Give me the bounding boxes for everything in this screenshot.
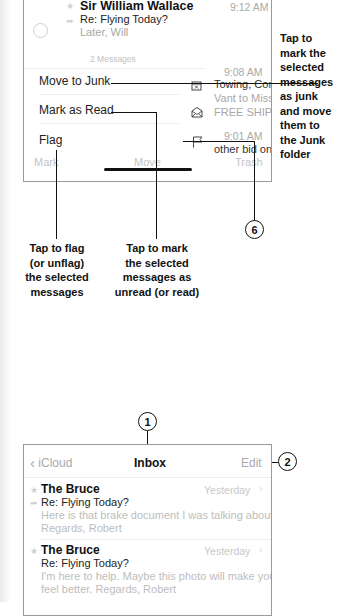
mark-as-read-button[interactable]: Mark as Read (39, 103, 114, 117)
junk-tray-icon[interactable] (191, 77, 202, 95)
callout-line-6 (183, 141, 255, 142)
divider (24, 477, 271, 478)
flag-icon[interactable] (192, 134, 203, 152)
message-preview: Later, Will (80, 26, 128, 38)
envelope-open-icon[interactable] (191, 104, 203, 122)
flag-button[interactable]: Flag (39, 133, 62, 147)
edit-button[interactable]: Edit (241, 456, 262, 470)
message-count: 2 Messages (90, 54, 136, 64)
message-subject: Re: Flying Today? (41, 557, 129, 569)
message-sender: Sir William Wallace (80, 0, 193, 13)
star-icon: ★ (66, 1, 74, 11)
message-time: Yesterday (204, 484, 250, 496)
bg-item-line: other bid on... (214, 143, 272, 155)
toolbar-trash-button[interactable]: Trash (235, 156, 263, 168)
message-preview: Regards, Robert (41, 522, 122, 534)
mark-callout: Tap to markthe selectedmessages asunread… (104, 241, 210, 299)
message-time: 9:12 AM (230, 1, 269, 13)
callout-number-2: 2 (278, 452, 297, 471)
page-title: Inbox (134, 456, 166, 470)
chevron-left-icon: ‹ (30, 454, 35, 471)
message-time: Yesterday (204, 545, 250, 557)
page-edge-shadow (0, 0, 12, 602)
callout-line-6 (254, 141, 255, 223)
chevron-right-icon: › (259, 483, 262, 494)
message-preview: Here is that brake document I was talkin… (41, 509, 272, 521)
bg-item-line: FREE SHIPPI... (214, 106, 272, 118)
star-icon: ★ (30, 546, 38, 556)
message-subject: Re: Flying Today? (41, 496, 129, 508)
divider (24, 68, 204, 69)
message-preview: I'm here to help. Maybe this photo will … (41, 570, 272, 582)
mail-actions-screen: ★ Sir William Wallace 9:12 AM ➦ Re: Flyi… (23, 0, 272, 182)
message-preview: feel better. Regards, Robert (41, 583, 176, 595)
replied-icon: ➦ (66, 16, 74, 26)
message-sender: The Bruce (41, 482, 100, 496)
back-button[interactable]: ‹ iCloud (30, 454, 72, 471)
back-label: iCloud (38, 456, 72, 470)
message-subject: Re: Flying Today? (80, 13, 168, 25)
flag-callout: Tap to flag(or unflag)the selectedmessag… (10, 241, 104, 299)
callout-line-mark (156, 112, 157, 239)
replied-icon: ➦ (30, 498, 38, 508)
toolbar-mark-button[interactable]: Mark (34, 156, 58, 168)
callout-line-mark (111, 112, 157, 113)
divider (39, 123, 179, 124)
chevron-right-icon: › (259, 544, 262, 555)
bg-item-time: 9:08 AM (224, 66, 263, 78)
divider (41, 539, 271, 540)
bg-item-line: Towing, Conv... (214, 78, 272, 90)
callout-number-1: 1 (138, 412, 157, 431)
bg-item-line: Vant to Miss (214, 92, 272, 104)
star-icon: ★ (30, 485, 38, 495)
message-sender: The Bruce (41, 543, 100, 557)
callout-number-6: 6 (245, 220, 264, 239)
move-to-junk-button[interactable]: Move to Junk (39, 74, 110, 88)
home-indicator (104, 168, 192, 171)
inbox-screen: ‹ iCloud Inbox Edit ★ The Bruce Yesterda… (23, 444, 272, 616)
callout-line-flag (56, 150, 57, 239)
divider (39, 94, 179, 95)
junk-callout: Tap tomark theselectedmessagesas junkand… (280, 31, 340, 162)
select-circle[interactable] (33, 23, 48, 38)
